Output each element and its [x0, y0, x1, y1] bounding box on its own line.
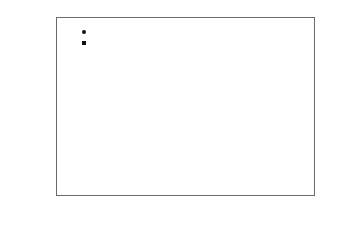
legend-item-sputter-deposited-ta [82, 37, 90, 48]
square-marker-icon [82, 41, 86, 45]
plot-area [56, 17, 315, 196]
circle-marker-icon [82, 30, 86, 34]
chart-legend [82, 26, 90, 48]
legend-item-self-formed-barrier [82, 26, 90, 37]
chart-figure [0, 0, 338, 236]
